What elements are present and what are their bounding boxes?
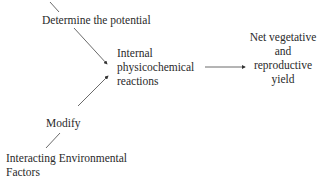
node-environmental-factors: Interacting Environmental Factors — [6, 151, 127, 179]
node-determine-potential: Determine the potential — [42, 13, 151, 27]
arrow-modify-to-internal — [78, 76, 108, 106]
yield-line-1: Net vegetative — [243, 30, 323, 44]
internal-line-1: Internal — [117, 46, 194, 60]
yield-line-2: and — [243, 44, 323, 58]
internal-line-3: reactions — [117, 74, 194, 88]
environment-line-2: Factors — [6, 165, 127, 179]
line-top-to-determine — [50, 2, 59, 12]
node-modify: Modify — [46, 116, 81, 130]
internal-line-2: physicochemical — [117, 60, 194, 74]
arrow-determine-to-internal — [74, 28, 107, 64]
node-internal-reactions: Internal physicochemical reactions — [117, 46, 194, 88]
line-environment-to-modify — [46, 133, 60, 148]
determine-label: Determine the potential — [42, 14, 151, 26]
yield-line-3: reproductive — [243, 58, 323, 72]
environment-line-1: Interacting Environmental — [6, 151, 127, 165]
modify-label: Modify — [46, 117, 81, 129]
node-net-yield: Net vegetative and reproductive yield — [243, 30, 323, 86]
yield-line-4: yield — [243, 72, 323, 86]
